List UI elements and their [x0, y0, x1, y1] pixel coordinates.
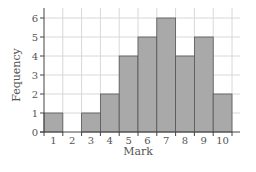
x-tick-label: 8	[182, 135, 188, 146]
histogram-bar	[213, 94, 232, 132]
x-tick-label: 10	[216, 135, 229, 146]
histogram-bar	[138, 37, 157, 132]
x-tick-label: 1	[50, 135, 56, 146]
histogram-bar	[44, 113, 63, 132]
y-tick-label: 6	[32, 13, 38, 24]
y-tick-label: 5	[32, 32, 38, 43]
y-tick-label: 0	[32, 127, 38, 138]
x-tick-label: 9	[201, 135, 207, 146]
y-tick-label: 2	[32, 89, 38, 100]
x-tick-label: 3	[88, 135, 94, 146]
y-tick-label: 1	[32, 108, 38, 119]
histogram-bar	[176, 56, 195, 132]
x-tick-label: 4	[107, 135, 113, 146]
histogram-bar	[194, 37, 213, 132]
y-tick-label: 4	[32, 51, 38, 62]
y-tick-label: 3	[32, 70, 38, 81]
histogram-bar	[82, 113, 101, 132]
x-axis-label: Mark	[123, 145, 153, 158]
x-tick-label: 7	[163, 135, 169, 146]
histogram-bar	[157, 18, 176, 132]
x-tick-label: 2	[69, 135, 75, 146]
histogram-bar	[119, 56, 138, 132]
y-axis-label: Fequency	[10, 47, 23, 101]
histogram-chart: 012345612345678910MarkFequency	[0, 0, 256, 172]
histogram-bar	[100, 94, 119, 132]
